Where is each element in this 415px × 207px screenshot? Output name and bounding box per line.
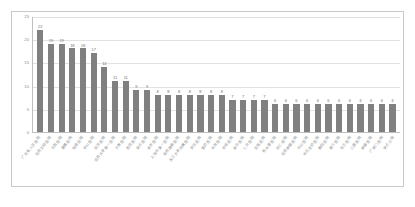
bar-item[interactable]: 9: [142, 17, 153, 132]
bar-rect[interactable]: [293, 104, 299, 132]
bar-rect[interactable]: [59, 44, 65, 132]
bar-rect[interactable]: [272, 104, 278, 132]
bar-rect[interactable]: [219, 95, 225, 132]
bar-value-label: 11: [113, 76, 117, 80]
bar-item[interactable]: 8: [174, 17, 185, 132]
bar-item[interactable]: 6: [377, 17, 388, 132]
bar-value-label: 22: [38, 25, 42, 29]
bar-item[interactable]: 6: [270, 17, 281, 132]
bar-rect[interactable]: [347, 104, 353, 132]
bar-item[interactable]: 6: [387, 17, 398, 132]
bar-item[interactable]: 6: [280, 17, 291, 132]
y-axis: 0510152025: [11, 17, 31, 133]
bar-value-label: 18: [81, 44, 85, 48]
bar-item[interactable]: 6: [312, 17, 323, 132]
bar-value-label: 6: [295, 99, 297, 103]
bar-item[interactable]: 17: [88, 17, 99, 132]
bar-rect[interactable]: [208, 95, 214, 132]
bar-rect[interactable]: [240, 100, 246, 132]
bar-rect[interactable]: [133, 90, 139, 132]
bar-item[interactable]: 18: [78, 17, 89, 132]
bar-item[interactable]: 7: [238, 17, 249, 132]
bar-rect[interactable]: [155, 95, 161, 132]
bar-item[interactable]: 6: [355, 17, 366, 132]
bar-value-label: 6: [381, 99, 383, 103]
bar-rect[interactable]: [261, 100, 267, 132]
bar-item[interactable]: 8: [206, 17, 217, 132]
bar-item[interactable]: 8: [152, 17, 163, 132]
bar-item[interactable]: 6: [344, 17, 355, 132]
bar-value-label: 9: [135, 85, 137, 89]
bar-rect[interactable]: [283, 104, 289, 132]
bar-item[interactable]: 6: [366, 17, 377, 132]
bar-rect[interactable]: [123, 81, 129, 132]
bar-rect[interactable]: [80, 48, 86, 132]
bar-item[interactable]: 11: [110, 17, 121, 132]
bar-rect[interactable]: [187, 95, 193, 132]
bar-value-label: 8: [167, 90, 169, 94]
bar-item[interactable]: 6: [334, 17, 345, 132]
x-axis: 广东省人民医院北京协和医院华西医院湘雅医院瑞金医院中山医院同济医院北京大学第一医…: [32, 135, 400, 183]
bar-rect[interactable]: [379, 104, 385, 132]
bar-value-label: 6: [306, 99, 308, 103]
bar-rect[interactable]: [368, 104, 374, 132]
bar-item[interactable]: 11: [120, 17, 131, 132]
y-tick-label: 20: [24, 38, 29, 42]
bar-item[interactable]: 19: [56, 17, 67, 132]
bar-item[interactable]: 8: [184, 17, 195, 132]
y-tick-label: 15: [24, 61, 29, 65]
bar-item[interactable]: 6: [323, 17, 334, 132]
bar-value-label: 8: [210, 90, 212, 94]
bar-value-label: 9: [146, 85, 148, 89]
chart-plot-wrapper: 0510152025 22191918181714111199888888877…: [11, 11, 404, 187]
bar-item[interactable]: 7: [248, 17, 259, 132]
bar-value-label: 8: [221, 90, 223, 94]
bar-item[interactable]: 6: [291, 17, 302, 132]
bar-rect[interactable]: [315, 104, 321, 132]
bar-value-label: 14: [102, 62, 106, 66]
bar-item[interactable]: 6: [302, 17, 313, 132]
bar-value-label: 7: [253, 95, 255, 99]
bar-item[interactable]: 8: [163, 17, 174, 132]
bar-rect[interactable]: [69, 48, 75, 132]
bar-value-label: 6: [317, 99, 319, 103]
bar-rect[interactable]: [197, 95, 203, 132]
bar-value-label: 8: [199, 90, 201, 94]
bar-rect[interactable]: [91, 53, 97, 132]
bar-rect[interactable]: [112, 81, 118, 132]
bar-rect[interactable]: [325, 104, 331, 132]
bar-rect[interactable]: [48, 44, 54, 132]
bar-value-label: 18: [70, 44, 74, 48]
bar-item[interactable]: 22: [35, 17, 46, 132]
bar-rect[interactable]: [357, 104, 363, 132]
bar-item[interactable]: 19: [46, 17, 57, 132]
bar-value-label: 7: [263, 95, 265, 99]
bar-series: 2219191818171411119988888887777666666666…: [33, 17, 400, 132]
bar-rect[interactable]: [144, 90, 150, 132]
y-tick-label: 25: [24, 15, 29, 19]
bar-rect[interactable]: [176, 95, 182, 132]
bar-value-label: 8: [189, 90, 191, 94]
bar-item[interactable]: 8: [216, 17, 227, 132]
bar-item[interactable]: 14: [99, 17, 110, 132]
bar-rect[interactable]: [101, 67, 107, 132]
bar-rect[interactable]: [389, 104, 395, 132]
bar-rect[interactable]: [37, 30, 43, 132]
bar-item[interactable]: 8: [195, 17, 206, 132]
bar-rect[interactable]: [336, 104, 342, 132]
bar-value-label: 6: [359, 99, 361, 103]
plot-area: 2219191818171411119988888887777666666666…: [32, 17, 400, 133]
bar-item[interactable]: 7: [259, 17, 270, 132]
bar-value-label: 7: [242, 95, 244, 99]
bar-value-label: 6: [285, 99, 287, 103]
bar-value-label: 17: [91, 48, 95, 52]
bar-rect[interactable]: [229, 100, 235, 132]
bar-item[interactable]: 9: [131, 17, 142, 132]
bar-value-label: 6: [391, 99, 393, 103]
bar-item[interactable]: 7: [227, 17, 238, 132]
bar-rect[interactable]: [304, 104, 310, 132]
bar-rect[interactable]: [165, 95, 171, 132]
bar-rect[interactable]: [251, 100, 257, 132]
bar-value-label: 8: [157, 90, 159, 94]
bar-item[interactable]: 18: [67, 17, 78, 132]
